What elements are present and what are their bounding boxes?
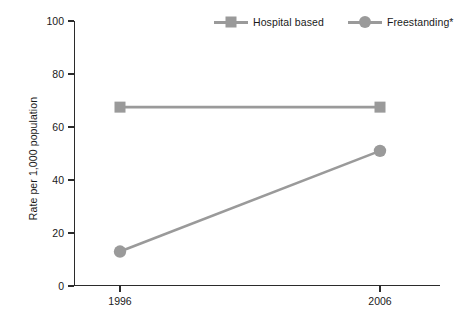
x-tick-2006	[379, 286, 380, 292]
x-tick-1996	[119, 286, 120, 292]
y-tick-label-80: 80	[52, 68, 64, 80]
y-tick-label-100: 100	[46, 15, 64, 27]
series-freestanding	[114, 145, 386, 258]
series-line	[120, 151, 380, 252]
y-tick-label-20: 20	[52, 227, 64, 239]
data-point-circle[interactable]	[374, 145, 386, 157]
data-point-square[interactable]	[115, 102, 126, 113]
data-point-circle[interactable]	[114, 245, 126, 257]
x-tick-label-2006: 2006	[368, 295, 391, 307]
y-tick-label-0: 0	[58, 280, 64, 292]
y-tick-label-40: 40	[52, 174, 64, 186]
plot-area: 020406080100 19962006	[74, 21, 440, 286]
x-tick-label-1996: 1996	[108, 295, 131, 307]
y-axis-title: Rate per 1,000 population	[22, 0, 44, 317]
y-tick-label-60: 60	[52, 121, 64, 133]
data-point-square[interactable]	[375, 102, 386, 113]
series-layer	[74, 21, 440, 286]
series-hospital-based	[115, 102, 386, 113]
